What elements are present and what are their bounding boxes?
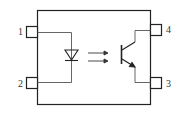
light-arrows-icon [88,51,108,63]
package-outline [38,11,151,105]
led-circuit [38,33,72,83]
pin-label-1: 1 [18,27,23,37]
pin-1 [27,27,38,38]
pin-2 [27,78,38,89]
pin-4 [151,25,162,36]
phototransistor-icon [122,42,136,67]
pin-label-4: 4 [166,25,171,35]
pin-label-3: 3 [166,79,171,89]
transistor-wiring [135,31,151,83]
pin-3 [151,78,162,89]
optocoupler-diagram [0,0,184,114]
pin-label-2: 2 [18,79,23,89]
